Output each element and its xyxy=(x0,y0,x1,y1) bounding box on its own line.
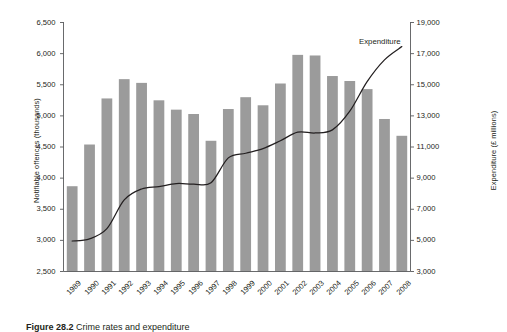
y-axis-left-tick-label: 3,000 xyxy=(22,236,56,244)
y-axis-left-tick-label: 5,000 xyxy=(22,112,56,120)
bar xyxy=(206,141,217,272)
bar xyxy=(67,186,78,271)
bar xyxy=(102,98,113,271)
y-axis-left-tick-label: 5,500 xyxy=(22,81,56,89)
y-axis-right-title: Expenditure (£ millions) xyxy=(489,51,498,251)
y-axis-right-tick-label: 9,000 xyxy=(417,174,457,182)
y-axis-left-tick-label: 4,000 xyxy=(22,174,56,182)
bar xyxy=(258,105,269,271)
bars-layer xyxy=(67,55,407,272)
y-axis-right-tick-label: 19,000 xyxy=(417,19,457,27)
bar xyxy=(362,89,373,271)
figure-caption: Figure 28.2 Crime rates and expenditure xyxy=(26,322,190,332)
chart-figure: Notifiable offences (thousands) Expendit… xyxy=(0,0,507,332)
bar xyxy=(292,55,303,272)
y-axis-left-tick-label: 6,500 xyxy=(22,19,56,27)
bar xyxy=(379,119,390,272)
bar xyxy=(275,84,286,272)
bar xyxy=(344,81,355,271)
bar xyxy=(136,83,147,272)
y-axis-left-tick-label: 4,500 xyxy=(22,143,56,151)
bar xyxy=(240,97,251,271)
y-axis-left-tick-label: 2,500 xyxy=(22,268,56,276)
bar xyxy=(188,114,199,271)
figure-caption-number: Figure 28.2 xyxy=(26,322,74,332)
figure-caption-text: Crime rates and expenditure xyxy=(76,322,190,332)
bar xyxy=(171,110,182,272)
bar xyxy=(310,55,321,271)
bar xyxy=(396,136,407,272)
bar xyxy=(119,79,130,271)
axes-layer xyxy=(60,22,414,272)
y-axis-right-tick-label: 17,000 xyxy=(417,50,457,58)
bar xyxy=(327,76,338,271)
y-axis-left-tick-label: 6,000 xyxy=(22,50,56,58)
bar xyxy=(84,145,95,272)
bar xyxy=(223,109,234,271)
expenditure-series-label: Expenditure xyxy=(359,37,401,46)
y-axis-right-tick-label: 3,000 xyxy=(417,268,457,276)
y-axis-right-tick-label: 5,000 xyxy=(417,236,457,244)
y-axis-right-tick-label: 11,000 xyxy=(417,143,457,151)
y-axis-right-tick-label: 15,000 xyxy=(417,81,457,89)
y-axis-right-tick-label: 7,000 xyxy=(417,205,457,213)
y-axis-right-tick-label: 13,000 xyxy=(417,112,457,120)
y-axis-left-tick-label: 3,500 xyxy=(22,205,56,213)
